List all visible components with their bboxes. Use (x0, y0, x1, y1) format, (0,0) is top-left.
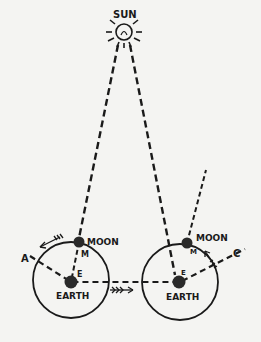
left-moon-marker: M (81, 250, 89, 259)
earth-orbit-path (30, 249, 245, 282)
earth-motion-arrow-icon (110, 287, 133, 293)
sunline-right (130, 45, 175, 275)
left-earth (65, 276, 78, 289)
right-moon-label: MOON (196, 233, 228, 243)
sun-label: SUN (113, 9, 137, 20)
left-moon-motion-arrow-icon (40, 234, 63, 248)
right-earth-label: EARTH (166, 292, 199, 302)
sun (106, 20, 142, 48)
lunar-month-diagram: SUN MOON M E EARTH A MOON M E EARTH C (0, 0, 261, 342)
left-earth-label: EARTH (56, 291, 89, 301)
earth-moon-lines (71, 170, 206, 282)
right-moon-marker: M (190, 248, 197, 256)
right-earth (173, 276, 186, 289)
left-moon (74, 237, 85, 248)
right-earth-marker: E (181, 269, 186, 277)
orbit-point-a-label: A (21, 253, 29, 264)
right-moon (182, 238, 193, 249)
left-earth-marker: E (77, 270, 82, 279)
sunline-left (79, 45, 118, 238)
left-moon-label: MOON (87, 237, 119, 247)
orbit-point-c-label: C (233, 248, 240, 259)
